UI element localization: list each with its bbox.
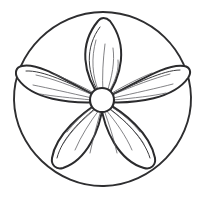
center-disc-group	[90, 88, 114, 112]
flower-mandala-illustration	[0, 0, 207, 197]
drawing-canvas: Five-petal flower in circle	[0, 0, 207, 197]
center-disc	[90, 88, 114, 112]
